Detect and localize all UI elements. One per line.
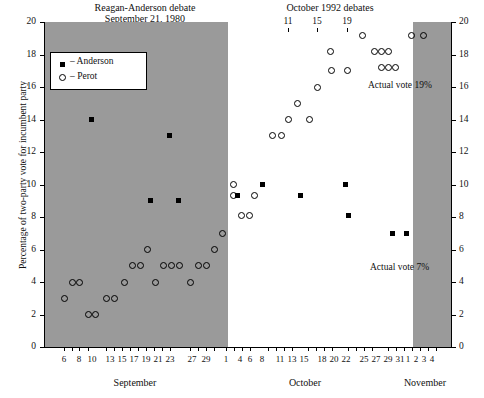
data-point-perot bbox=[76, 279, 83, 286]
data-point-anderson bbox=[260, 182, 265, 187]
x-tick-september bbox=[206, 348, 207, 351]
x-tick-october bbox=[364, 348, 365, 351]
data-point-perot bbox=[420, 32, 427, 39]
y-tick-left bbox=[40, 347, 44, 348]
data-point-perot bbox=[385, 48, 392, 55]
x-tick-october bbox=[284, 348, 285, 351]
data-point-perot bbox=[314, 84, 321, 91]
x-tick-september bbox=[154, 348, 155, 351]
x-tick-label-november: 4 bbox=[424, 354, 440, 364]
x-tick-september bbox=[106, 348, 107, 351]
y-axis-label: Percentage of two-party vote for incumbe… bbox=[18, 60, 28, 290]
data-point-anderson bbox=[390, 231, 395, 236]
x-tick-september bbox=[214, 348, 215, 351]
debate-day-tick bbox=[347, 28, 348, 32]
y-tick-right bbox=[452, 87, 456, 88]
x-tick-october bbox=[292, 348, 293, 351]
x-tick-october bbox=[308, 348, 309, 351]
data-point-anderson bbox=[343, 182, 348, 187]
x-tick-september bbox=[114, 348, 115, 351]
y-tick-left bbox=[40, 55, 44, 56]
x-tick-september bbox=[170, 348, 171, 351]
y-tick-right bbox=[452, 22, 456, 23]
x-tick-september bbox=[138, 348, 139, 351]
data-point-perot bbox=[69, 279, 76, 286]
annotation-actual-vote-7: Actual vote 7% bbox=[370, 262, 429, 272]
legend-marker-anderson bbox=[60, 62, 65, 67]
data-point-perot bbox=[144, 246, 151, 253]
x-tick-september bbox=[162, 348, 163, 351]
data-point-perot bbox=[168, 262, 175, 269]
title-left-line1: Reagan-Anderson debate bbox=[60, 2, 230, 13]
data-point-perot bbox=[152, 279, 159, 286]
data-point-perot bbox=[219, 230, 226, 237]
data-point-perot bbox=[408, 32, 415, 39]
y-tick-label-left: 18 bbox=[18, 49, 36, 59]
x-tick-october bbox=[234, 348, 235, 351]
y-tick-right bbox=[452, 315, 456, 316]
y-tick-label-right: 16 bbox=[459, 81, 477, 91]
y-tick-label-right: 6 bbox=[459, 244, 477, 254]
data-point-anderson bbox=[148, 198, 153, 203]
y-tick-label-left: 2 bbox=[18, 309, 36, 319]
x-tick-september bbox=[190, 348, 191, 351]
data-point-perot bbox=[269, 132, 276, 139]
y-tick-label-right: 18 bbox=[459, 49, 477, 59]
annotation-actual-vote-19: Actual vote 19% bbox=[368, 80, 432, 90]
y-tick-label-right: 4 bbox=[459, 276, 477, 286]
data-point-perot bbox=[61, 295, 68, 302]
x-tick-october bbox=[372, 348, 373, 351]
y-tick-left bbox=[40, 250, 44, 251]
data-point-perot bbox=[306, 116, 313, 123]
data-point-perot bbox=[294, 100, 301, 107]
chart-figure: Reagan-Anderson debate September 21, 198… bbox=[0, 0, 484, 398]
x-tick-october bbox=[316, 348, 317, 351]
x-tick-october bbox=[324, 348, 325, 351]
data-point-perot bbox=[160, 262, 167, 269]
y-tick-label-right: 8 bbox=[459, 211, 477, 221]
data-point-perot bbox=[92, 311, 99, 318]
y-tick-label-right: 14 bbox=[459, 114, 477, 124]
y-tick-left bbox=[40, 315, 44, 316]
x-tick-october bbox=[332, 348, 333, 351]
y-tick-left bbox=[40, 185, 44, 186]
data-point-anderson bbox=[298, 193, 303, 198]
debate-day-label: 15 bbox=[309, 16, 325, 26]
x-tick-november bbox=[412, 348, 413, 351]
data-point-perot bbox=[121, 279, 128, 286]
data-point-perot bbox=[344, 67, 351, 74]
data-point-perot bbox=[85, 311, 92, 318]
data-point-perot bbox=[392, 64, 399, 71]
x-tick-october bbox=[356, 348, 357, 351]
chart-title-right: October 1992 debates bbox=[250, 2, 410, 13]
data-point-perot bbox=[187, 279, 194, 286]
legend-label-perot: – Perot bbox=[70, 71, 97, 81]
x-tick-october bbox=[226, 348, 227, 351]
y-tick-label-left: 20 bbox=[18, 16, 36, 26]
x-tick-september bbox=[198, 348, 199, 351]
data-point-anderson bbox=[89, 117, 94, 122]
data-point-perot bbox=[251, 192, 258, 199]
y-tick-label-left: 0 bbox=[18, 341, 36, 351]
x-tick-september bbox=[130, 348, 131, 351]
x-tick-november bbox=[428, 348, 429, 351]
debate-day-label: 19 bbox=[339, 16, 355, 26]
data-point-perot bbox=[129, 262, 136, 269]
x-tick-october bbox=[276, 348, 277, 351]
x-tick-label-september: 23 bbox=[162, 354, 178, 364]
data-point-perot bbox=[327, 48, 334, 55]
x-tick-october bbox=[268, 348, 269, 351]
y-tick-right bbox=[452, 250, 456, 251]
y-tick-right bbox=[452, 120, 456, 121]
y-tick-left bbox=[40, 217, 44, 218]
x-tick-september bbox=[146, 348, 147, 351]
x-tick-october bbox=[396, 348, 397, 351]
x-tick-october bbox=[404, 348, 405, 351]
data-point-perot bbox=[230, 192, 237, 199]
x-tick-label-september: 6 bbox=[56, 354, 72, 364]
data-point-perot bbox=[103, 295, 110, 302]
y-tick-label-right: 2 bbox=[459, 309, 477, 319]
legend-marker-perot bbox=[59, 74, 66, 81]
x-tick-october bbox=[388, 348, 389, 351]
data-point-anderson bbox=[167, 133, 172, 138]
